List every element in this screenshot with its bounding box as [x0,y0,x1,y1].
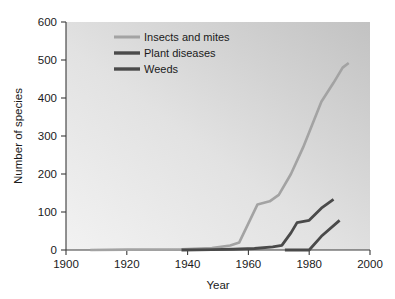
x-axis-title: Year [206,279,229,291]
y-tick-label: 400 [38,92,57,104]
x-tick-label: 1940 [175,258,201,270]
x-axis-tick-labels: 190019201940196019802000 [53,258,383,270]
y-tick-label: 600 [38,16,57,28]
chart-figure: 0100200300400500600 19001920194019601980… [0,0,395,299]
y-axis-title: Number of species [12,88,24,184]
x-tick-label: 1980 [296,258,322,270]
y-axis-ticks [61,22,66,250]
plot-background [66,22,370,250]
y-tick-label: 200 [38,168,57,180]
legend-label: Plant diseases [144,47,216,59]
y-tick-label: 500 [38,54,57,66]
y-tick-label: 300 [38,130,57,142]
x-tick-label: 1900 [53,258,79,270]
y-tick-label: 100 [38,206,57,218]
legend-label: Insects and mites [144,31,230,43]
y-tick-label: 0 [51,244,57,256]
x-tick-label: 1920 [114,258,140,270]
legend-label: Weeds [144,63,179,75]
resistance-line-chart: 0100200300400500600 19001920194019601980… [0,0,395,299]
y-axis-tick-labels: 0100200300400500600 [38,16,57,256]
x-tick-label: 2000 [357,258,383,270]
x-tick-label: 1960 [236,258,262,270]
